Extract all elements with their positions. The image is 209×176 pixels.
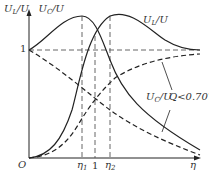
x-tick-eta2: η2	[105, 160, 115, 172]
ul-solid-curve	[29, 14, 200, 158]
ul-curve-label: UL/U	[143, 15, 168, 27]
x-tick-one: 1	[92, 161, 98, 171]
y-tick-one: 1	[20, 44, 26, 54]
uc-solid-curve	[29, 16, 200, 150]
uc-dashed-curve	[29, 50, 200, 155]
chart-plot	[0, 0, 209, 176]
x-axis-label: η	[190, 160, 196, 170]
x-tick-eta1: η1	[77, 160, 87, 172]
uc-curve-label: UC/U	[146, 92, 172, 104]
chart-root: UL/U UC/U 1 O η η1 1 η2 UL/U UC/U Q<0.70…	[0, 0, 209, 176]
q-pointer-upper	[162, 62, 172, 90]
q-condition-label: Q<0.707	[169, 92, 209, 102]
origin-label: O	[18, 160, 26, 170]
y-axis-label: UL/U UC/U	[4, 4, 64, 16]
